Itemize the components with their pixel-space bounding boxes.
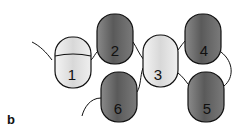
domain-diagram: 1 2 6 3 4 5 b (0, 0, 245, 132)
domain-label-3: 3 (154, 66, 162, 83)
domain-6: 6 (101, 72, 137, 122)
link-1-2 (91, 52, 97, 60)
domain-label-2: 2 (111, 42, 119, 59)
domain-3: 3 (143, 35, 178, 87)
link-5-3 (178, 73, 188, 84)
domain-5: 5 (188, 72, 224, 122)
domain-1: 1 (55, 37, 91, 88)
domain-label-1: 1 (68, 66, 76, 83)
panel-label: b (7, 112, 15, 127)
link-3-6 (137, 68, 143, 92)
n-terminus-strand (32, 42, 52, 60)
domain-label-4: 4 (200, 42, 208, 59)
link-2-3 (133, 42, 144, 60)
domain-label-6: 6 (114, 100, 122, 117)
domain-2: 2 (97, 14, 133, 64)
domain-label-5: 5 (203, 100, 211, 117)
c-terminus-strand (82, 98, 101, 116)
domain-4: 4 (185, 14, 221, 64)
